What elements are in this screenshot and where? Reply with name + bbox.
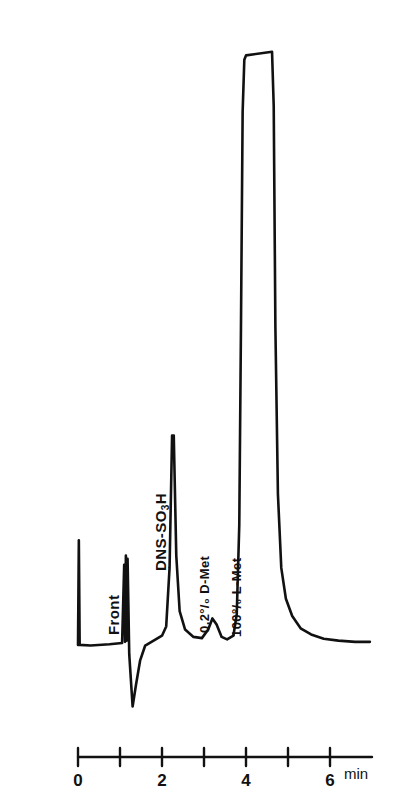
peak-label-dns-so3h: DNS-SO3H bbox=[153, 493, 168, 571]
dns-label-main: DNS-SO bbox=[152, 510, 169, 571]
x-axis-tick-label-4: 4 bbox=[226, 772, 266, 789]
peak-label-front: Front bbox=[106, 595, 121, 635]
peak-label-d-met: 0,2°/₀ D-Met bbox=[198, 556, 211, 633]
chromatogram-figure: 0246 min Front DNS-SO3H 0,2°/₀ D-Met 100… bbox=[0, 0, 402, 805]
x-axis-tick-label-0: 0 bbox=[58, 772, 98, 789]
peak-label-l-met: 100°/₀ L-Met bbox=[230, 558, 243, 637]
dns-label-subscript: 3 bbox=[160, 504, 171, 510]
chromatogram-plot bbox=[0, 0, 402, 805]
x-axis-tick-label-2: 2 bbox=[142, 772, 182, 789]
x-axis-unit-label: min bbox=[344, 766, 368, 781]
dns-label-tail: H bbox=[152, 493, 169, 504]
x-axis-group bbox=[78, 748, 372, 766]
